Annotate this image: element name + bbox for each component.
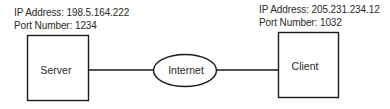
server-ip-label: IP Address: 198.5.164.222 (14, 8, 129, 18)
internet-node-label: Internet (168, 65, 204, 76)
client-node-label: Client (292, 61, 319, 72)
client-ip-label: IP Address: 205.231.234.12 (259, 5, 380, 15)
client-port-label: Port Number: 1032 (259, 18, 342, 28)
server-node-label: Server (41, 65, 72, 76)
server-port-label: Port Number: 1234 (14, 21, 97, 31)
